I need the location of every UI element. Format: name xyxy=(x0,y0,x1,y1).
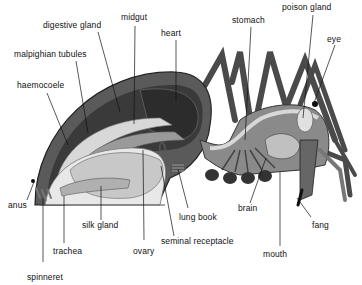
label-eye: eye xyxy=(327,34,341,44)
label-midgut: midgut xyxy=(121,12,147,22)
label-silk-gland: silk gland xyxy=(82,220,118,230)
label-malpighian-tubules: malpighian tubules xyxy=(14,49,87,59)
label-fang: fang xyxy=(312,220,329,230)
label-poison-gland: poison gland xyxy=(282,2,331,12)
label-trachea: trachea xyxy=(53,246,82,256)
label-spinneret: spinneret xyxy=(27,272,63,282)
spider-anatomy-diagram: digestive gland midgut heart stomach poi… xyxy=(0,0,362,285)
label-haemocoele: haemocoele xyxy=(17,80,64,90)
label-lung-book: lung book xyxy=(179,212,217,222)
label-ovary: ovary xyxy=(133,246,154,256)
label-digestive-gland: digestive gland xyxy=(43,20,101,30)
label-anus: anus xyxy=(8,200,27,210)
label-mouth: mouth xyxy=(263,249,287,259)
poison-gland-shape xyxy=(297,108,313,132)
label-stomach: stomach xyxy=(232,15,265,25)
label-seminal-receptacle: seminal receptacle xyxy=(161,236,234,246)
label-brain: brain xyxy=(238,203,257,213)
label-heart: heart xyxy=(161,28,181,38)
